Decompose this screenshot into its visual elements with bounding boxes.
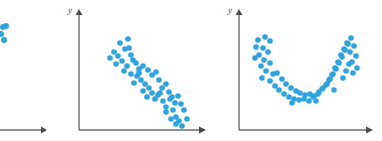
scatter-point bbox=[260, 45, 266, 51]
scatter-point bbox=[296, 97, 302, 103]
scatter-point bbox=[167, 96, 173, 102]
scatter-point bbox=[115, 53, 121, 59]
scatter-point bbox=[181, 107, 187, 113]
scatter-point bbox=[354, 65, 360, 71]
right-panel-data-points bbox=[252, 34, 360, 106]
scatter-point bbox=[157, 90, 163, 96]
left-panel-data-points bbox=[0, 23, 9, 43]
left-x-axis-arrow-icon bbox=[41, 126, 47, 133]
scatter-point bbox=[170, 107, 176, 113]
scatter-point bbox=[346, 61, 352, 67]
scatter-point bbox=[111, 49, 117, 55]
scatter-point bbox=[329, 72, 335, 78]
scatter-point bbox=[179, 123, 185, 129]
scatter-point bbox=[184, 116, 190, 122]
scatter-point bbox=[166, 89, 172, 95]
scatter-point bbox=[163, 104, 169, 110]
scatter-point bbox=[258, 63, 264, 69]
scatter-point bbox=[163, 81, 169, 87]
scatter-point bbox=[281, 91, 287, 97]
scatter-point bbox=[125, 36, 131, 42]
scatter-point bbox=[163, 109, 169, 115]
left-partial-plot-svg bbox=[0, 0, 50, 141]
scatter-point bbox=[301, 96, 307, 102]
scatter-point bbox=[343, 68, 349, 74]
scatter-point bbox=[255, 37, 261, 43]
scatter-point bbox=[353, 53, 359, 59]
scatter-point bbox=[323, 82, 329, 88]
scatter-point bbox=[253, 44, 259, 50]
negative-linear-scatterplot-panel: y bbox=[60, 0, 210, 141]
u-shaped-plot-svg: y bbox=[218, 0, 382, 141]
scatter-point bbox=[265, 49, 271, 55]
scatter-point bbox=[315, 91, 321, 97]
scatter-point bbox=[272, 83, 278, 89]
scatter-point bbox=[319, 86, 325, 92]
scatter-point bbox=[261, 57, 267, 63]
scatter-point bbox=[178, 101, 184, 107]
scatter-point bbox=[175, 93, 181, 99]
scatter-point bbox=[288, 85, 294, 91]
scatter-point bbox=[259, 75, 265, 81]
scatter-point bbox=[340, 75, 346, 81]
scatter-point bbox=[146, 85, 152, 91]
scatter-point bbox=[144, 94, 150, 100]
scatter-point bbox=[138, 77, 144, 83]
scatter-point bbox=[283, 81, 289, 87]
scatter-point bbox=[341, 46, 347, 52]
right-y-axis-arrow-icon bbox=[236, 9, 243, 15]
scatter-point bbox=[136, 70, 142, 76]
scatter-point bbox=[344, 40, 350, 46]
scatter-point bbox=[124, 63, 130, 69]
scatter-point bbox=[263, 68, 269, 74]
scatter-point bbox=[279, 76, 285, 82]
scatter-point bbox=[313, 98, 319, 104]
scatter-point bbox=[126, 45, 132, 51]
scatter-point bbox=[113, 61, 119, 67]
scatter-point bbox=[286, 94, 292, 100]
scatter-point bbox=[107, 55, 113, 61]
middle-y-axis-label: y bbox=[67, 5, 72, 15]
scatter-point bbox=[267, 78, 273, 84]
scatter-point bbox=[121, 68, 127, 74]
scatter-point bbox=[274, 70, 280, 76]
scatter-point bbox=[306, 98, 312, 104]
scatter-point bbox=[128, 71, 134, 77]
scatter-point bbox=[140, 88, 146, 94]
scatter-point bbox=[145, 67, 151, 73]
scatter-point bbox=[338, 52, 344, 58]
middle-panel-data-points bbox=[107, 36, 190, 129]
scatter-point bbox=[3, 23, 9, 29]
scatter-point bbox=[149, 90, 155, 96]
scatter-point bbox=[297, 90, 303, 96]
scatter-point bbox=[153, 69, 159, 75]
right-y-axis-label: y bbox=[227, 5, 232, 15]
scatter-point bbox=[289, 100, 295, 106]
scatter-point bbox=[117, 40, 123, 46]
right-x-axis-arrow-icon bbox=[366, 126, 373, 133]
scatter-point bbox=[160, 98, 166, 104]
scatter-point bbox=[133, 60, 139, 66]
scatter-point bbox=[332, 65, 338, 71]
left-panel-axes bbox=[0, 126, 47, 133]
scatter-point bbox=[159, 85, 165, 91]
scatter-point bbox=[347, 49, 353, 55]
scatter-point bbox=[142, 81, 148, 87]
scatter-point bbox=[350, 70, 356, 76]
scatter-point bbox=[348, 35, 354, 41]
middle-y-axis-arrow-icon bbox=[76, 9, 83, 15]
scatter-point bbox=[128, 52, 134, 58]
scatter-point bbox=[331, 87, 337, 93]
scatter-point bbox=[168, 116, 174, 122]
scatter-point bbox=[0, 31, 4, 37]
scatter-point bbox=[131, 80, 137, 86]
middle-x-axis-arrow-icon bbox=[199, 126, 206, 133]
scatter-point bbox=[267, 38, 273, 44]
scatter-point bbox=[172, 100, 178, 106]
scatter-point bbox=[156, 77, 162, 83]
u-shaped-scatterplot-panel: y bbox=[218, 0, 382, 141]
scatter-point bbox=[1, 37, 7, 43]
scatter-point bbox=[335, 59, 341, 65]
scatter-point bbox=[173, 121, 179, 127]
scatter-point bbox=[140, 63, 146, 69]
